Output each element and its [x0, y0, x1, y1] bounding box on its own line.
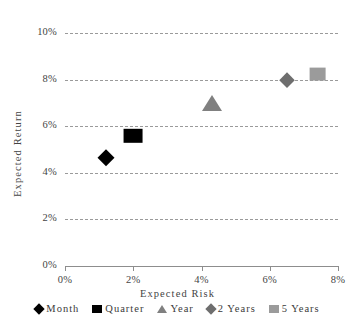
gridline [65, 126, 338, 127]
triangle-icon [157, 305, 167, 313]
diamond-icon [34, 303, 45, 314]
legend-label: Quarter [105, 303, 144, 314]
legend-label: Month [46, 303, 79, 314]
x-tick-mark [133, 266, 134, 271]
legend-label: Year [170, 303, 193, 314]
x-tick-mark [270, 266, 271, 271]
data-point-month [97, 149, 114, 166]
y-tick-label: 0% [43, 259, 57, 270]
legend-label: 2 Years [218, 303, 256, 314]
x-tick-mark [65, 266, 66, 271]
legend-item-2-years[interactable]: 2 Years [207, 303, 256, 314]
gridline [65, 219, 338, 220]
x-tick-label: 6% [263, 274, 277, 285]
square-icon [92, 305, 102, 313]
y-tick-label: 2% [43, 212, 57, 223]
legend-label: 5 Years [282, 303, 320, 314]
diamond-icon [205, 303, 216, 314]
gridline [65, 173, 338, 174]
data-point-5-years [309, 67, 326, 80]
data-point-year [202, 95, 222, 111]
data-point-2-years [279, 72, 294, 87]
x-tick-label: 0% [58, 274, 72, 285]
y-axis-title: Expected Return [12, 89, 23, 219]
x-axis-title: Expected Risk [0, 288, 355, 299]
legend-item-quarter[interactable]: Quarter [92, 303, 144, 314]
chart-legend: MonthQuarterYear2 Years5 Years [0, 303, 355, 314]
plot-area [65, 33, 338, 266]
data-point-quarter [124, 128, 143, 142]
gridline [65, 33, 338, 34]
gridline [65, 80, 338, 81]
scatter-chart: 0%2%4%6%8%10% 0%2%4%6%8% Expected Risk E… [0, 0, 355, 330]
x-tick-label: 8% [331, 274, 345, 285]
legend-item-month[interactable]: Month [35, 303, 79, 314]
x-tick-mark [202, 266, 203, 271]
square-icon [269, 305, 279, 313]
x-tick-label: 4% [194, 274, 208, 285]
legend-item-5-years[interactable]: 5 Years [269, 303, 320, 314]
y-tick-label: 6% [43, 119, 57, 130]
y-tick-label: 8% [43, 73, 57, 84]
x-tick-mark [338, 266, 339, 271]
y-tick-label: 10% [37, 26, 57, 37]
legend-item-year[interactable]: Year [157, 303, 193, 314]
y-tick-label: 4% [43, 166, 57, 177]
x-tick-label: 2% [126, 274, 140, 285]
